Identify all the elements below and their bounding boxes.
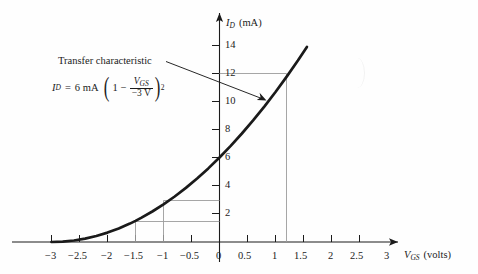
xtick-label-0: 0 [216,251,221,262]
x-axis-sub: GS [410,253,419,262]
ytick-label-4: 4 [225,180,230,191]
xtick-label-neg1: −1 [157,251,168,262]
equation-exponent: 2 [161,84,165,92]
xtick-label-1: 1 [272,251,277,262]
equation-one: 1 [112,83,117,94]
ytick-label-8: 8 [225,124,230,135]
xtick-label-neg2p5: −2.5 [68,251,87,262]
y-axis-label: ID(mA) [226,18,262,30]
x-axis-label: VGS(volts) [404,250,451,262]
xtick-label-0p5: 0.5 [238,251,251,262]
ytick-label-10: 10 [225,96,236,107]
annotation-title: Transfer characteristic [58,56,152,67]
equation-paren-close: ) [155,78,161,97]
xtick-label-1p5: 1.5 [294,251,307,262]
equation-minus: − [121,83,127,94]
annotation-arrow [166,62,267,101]
xtick-label-neg2: −2 [101,251,112,262]
ytick-label-12: 12 [225,68,236,79]
x-axis-unit: (volts) [424,249,451,260]
equation-fraction: VGS −3 V [130,77,153,99]
fraction-denominator: −3 V [130,89,153,99]
equation-lhs-sub: D [56,84,61,92]
xtick-label-2p5: 2.5 [350,251,363,262]
y-axis [216,13,223,262]
transfer-characteristic-figure: Transfer characteristic ID = 6 mA ( 1 − … [0,0,478,274]
xtick-label-neg1p5: −1.5 [124,251,143,262]
ytick-label-2: 2 [225,208,230,219]
y-axis-unit: (mA) [239,17,262,28]
xtick-label-neg0p5: −0.5 [180,251,199,262]
fraction-numerator: VGS [132,77,151,88]
xtick-label-3: 3 [384,251,389,262]
equation: ID = 6 mA ( 1 − VGS −3 V ) 2 [52,77,165,99]
equation-coefficient: 6 mA [75,83,99,94]
equation-equals: = [65,83,71,94]
y-axis-ticks [212,46,220,214]
ytick-label-6: 6 [225,152,230,163]
xtick-label-2: 2 [328,251,333,262]
chart-canvas [0,0,478,274]
xtick-label-neg3: −3 [45,251,56,262]
y-axis-sub: D [230,21,235,30]
equation-paren-open: ( [104,78,110,97]
ytick-label-14: 14 [225,40,236,51]
